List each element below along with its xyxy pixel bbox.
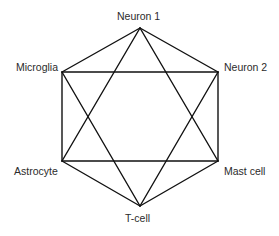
node-label-tcell: T-cell [125,212,150,224]
node-label-astrocyte: Astrocyte [14,165,58,177]
edge-tcell-neuron2 [140,72,218,206]
hexagon-outline [62,28,218,206]
node-label-neuron2: Neuron 2 [224,61,267,73]
node-label-mastcell: Mast cell [224,165,265,177]
cell-interaction-diagram [0,0,279,236]
node-label-neuron1: Neuron 1 [117,10,160,22]
edge-tcell-astrocyte [62,161,140,206]
edge-mastcell-tcell [140,161,218,206]
edge-neuron1-neuron2 [140,28,218,72]
edge-tcell-microglia [62,72,140,206]
edge-neuron1-astrocyte [62,28,140,161]
node-label-microglia: Microglia [16,61,58,73]
edge-neuron1-mastcell [140,28,218,161]
downward-triangle [62,72,218,206]
upward-triangle [62,28,218,161]
edge-microglia-neuron1 [62,28,140,72]
